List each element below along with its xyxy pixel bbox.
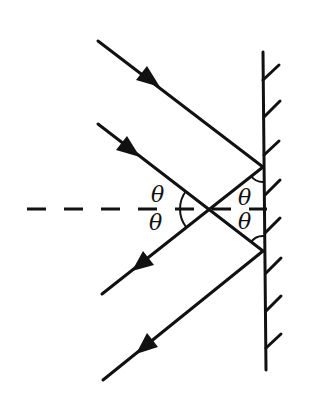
arrow-head-icon [136, 333, 158, 354]
angle-arc-upper-mirror [251, 176, 264, 182]
hatch-mark [266, 258, 281, 273]
mirror-surface [263, 52, 266, 370]
hatch-mark [264, 101, 280, 117]
hatch-mark [264, 141, 279, 155]
angle-arc-lower-mirror [251, 236, 264, 242]
hatch-mark [266, 334, 281, 348]
hatch-mark [265, 180, 280, 195]
reflected-ray-2 [103, 251, 263, 380]
angle-label-left-upper: θ [151, 182, 164, 207]
angle-label-left-lower: θ [149, 210, 162, 235]
hatch-mark [266, 296, 281, 311]
arrow-head-icon [136, 66, 160, 87]
angle-label-right-lower: θ [238, 209, 251, 234]
hatch-mark [263, 65, 279, 80]
hatch-mark [265, 218, 280, 233]
reflection-diagram: θ θ θ θ [0, 0, 310, 404]
angle-label-right-upper: θ [238, 185, 251, 210]
